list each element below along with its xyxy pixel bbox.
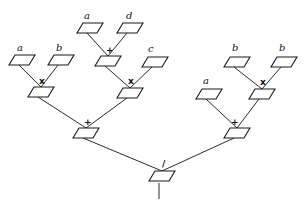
edge-op-mul3-to-op-add3 bbox=[237, 99, 259, 128]
leaf-node-leaf-a1 bbox=[9, 55, 35, 65]
leaf-node-leaf-b2 bbox=[224, 57, 250, 67]
operator-node-op-mul3 bbox=[249, 89, 275, 99]
edge-op-mul1-to-op-add2 bbox=[38, 97, 86, 128]
leaf-node-leaf-d bbox=[117, 23, 143, 33]
leaf-node-leaf-a2 bbox=[77, 23, 103, 33]
operator-label-op-mul1: x bbox=[39, 76, 45, 86]
variable-label-leaf-b1: b bbox=[56, 42, 62, 53]
operator-label-op-mul2: x bbox=[128, 76, 134, 86]
leaf-node-leaf-b1 bbox=[48, 55, 74, 65]
leaf-node-leaf-a3 bbox=[196, 89, 222, 99]
edge-op-add3-to-op-div bbox=[162, 138, 234, 171]
leaf-node-leaf-b3 bbox=[271, 57, 297, 67]
edge-op-add2-to-op-div bbox=[83, 138, 162, 171]
edge-op-mul2-to-op-add2 bbox=[86, 98, 127, 128]
variable-label-leaf-a2: a bbox=[84, 10, 90, 21]
variable-label-leaf-b2: b bbox=[232, 42, 238, 53]
operator-node-op-div bbox=[149, 171, 175, 181]
operator-node-op-add3 bbox=[224, 128, 250, 138]
leaf-node-leaf-c bbox=[142, 57, 168, 67]
variable-label-leaf-b3: b bbox=[279, 42, 285, 53]
operator-label-op-mul3: x bbox=[260, 77, 266, 87]
edge-leaf-b2-to-op-mul3 bbox=[234, 67, 262, 89]
variable-label-leaf-c: c bbox=[148, 43, 154, 54]
expression-tree-diagram: abadcabbx+x+x+/ bbox=[0, 0, 304, 202]
operator-node-op-mul1 bbox=[28, 87, 54, 97]
operator-label-op-add2: + bbox=[84, 117, 92, 127]
variable-label-leaf-a3: a bbox=[203, 75, 209, 86]
operator-label-op-add3: + bbox=[231, 117, 239, 127]
tree-labels: abadcabbx+x+x+/ bbox=[17, 10, 285, 169]
edge-leaf-a2-to-op-add1 bbox=[87, 33, 108, 56]
operator-node-op-add2 bbox=[73, 128, 99, 138]
operator-node-op-mul2 bbox=[117, 88, 143, 98]
operator-label-op-div: / bbox=[162, 159, 166, 169]
operator-node-op-add1 bbox=[95, 56, 121, 66]
variable-label-leaf-a1: a bbox=[17, 42, 23, 53]
edge-leaf-a1-to-op-mul1 bbox=[19, 65, 41, 87]
operator-label-op-add1: + bbox=[106, 45, 114, 55]
variable-label-leaf-d: d bbox=[126, 10, 132, 21]
edge-op-add1-to-op-mul2 bbox=[105, 66, 130, 88]
